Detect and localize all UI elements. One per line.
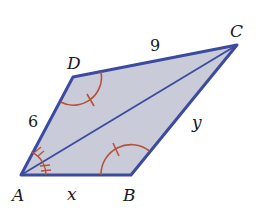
geometry-diagram: A B C D 6 9 x y	[0, 0, 263, 216]
side-label-bc: y	[191, 112, 202, 132]
side-label-dc: 9	[150, 36, 160, 55]
vertex-label-c: C	[230, 21, 243, 41]
vertex-label-a: A	[10, 185, 24, 205]
vertex-label-d: D	[66, 53, 81, 73]
vertex-label-b: B	[122, 185, 136, 205]
side-label-ad: 6	[28, 112, 38, 131]
side-label-ab: x	[67, 184, 77, 204]
